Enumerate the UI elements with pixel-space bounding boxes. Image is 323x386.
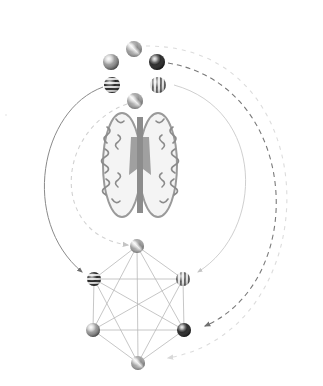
sphere-shading: [130, 239, 144, 253]
network-node-n-upper-left: [87, 272, 101, 286]
sphere-shading: [87, 272, 101, 286]
sphere-shading: [177, 323, 191, 337]
source-sphere-s-lower-right: [150, 77, 166, 93]
network-edge: [138, 330, 184, 363]
stray-dot: [5, 114, 7, 116]
sphere-shading: [127, 93, 143, 109]
sphere-shading: [103, 54, 119, 70]
sphere-shading: [104, 77, 120, 93]
sphere-shading: [126, 41, 142, 57]
arc-left-solid: [44, 87, 103, 272]
network-node-n-top: [130, 239, 144, 253]
network-node-n-lower-right: [177, 323, 191, 337]
brain-network-diagram: [0, 0, 323, 386]
network-edge: [93, 279, 94, 330]
network-node-n-upper-right: [176, 272, 190, 286]
network-node-n-lower-left: [86, 323, 100, 337]
network-edges: [93, 246, 184, 363]
brain-midline: [137, 117, 143, 213]
brain-slice: [102, 113, 179, 217]
sphere-shading: [131, 356, 145, 370]
source-sphere-s-top: [126, 41, 142, 57]
network-edge: [183, 279, 184, 330]
arc-right-dashed-dark: [168, 63, 276, 326]
source-sphere-s-lower-left: [104, 77, 120, 93]
source-sphere-s-upper-right: [149, 54, 165, 70]
network-node-n-bottom: [131, 356, 145, 370]
network-edge: [137, 246, 184, 330]
source-sphere-s-upper-left: [103, 54, 119, 70]
sphere-shading: [149, 54, 165, 70]
arc-right-solid: [174, 85, 246, 272]
sphere-shading: [150, 77, 166, 93]
network-edge: [94, 246, 137, 279]
sphere-shading: [176, 272, 190, 286]
source-sphere-s-bottom: [127, 93, 143, 109]
sphere-shading: [86, 323, 100, 337]
network-edge: [137, 246, 183, 279]
network-edge: [93, 330, 138, 363]
